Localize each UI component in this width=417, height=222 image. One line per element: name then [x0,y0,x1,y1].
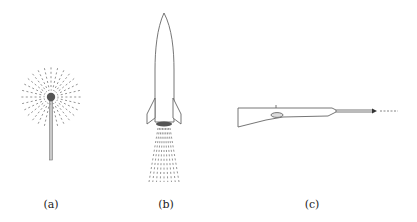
rocket-drawing [147,13,181,182]
sparkler-drawing [20,66,82,160]
panel-label-a: (a) [43,198,58,211]
panel-label-b: (b) [158,198,174,211]
panel-label-c: (c) [305,198,320,211]
rifle-drawing [238,105,398,127]
figure-canvas [0,0,417,222]
